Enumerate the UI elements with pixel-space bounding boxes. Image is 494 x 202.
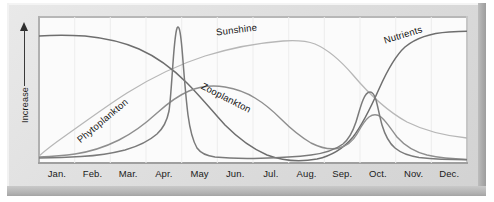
frame-highlight-top [7,3,486,5]
frame-highlight-left [7,3,9,193]
month-label: Nov. [396,168,432,184]
month-label: Oct. [360,168,396,184]
month-label: Dec. [431,168,467,184]
month-label: Jan. [39,168,75,184]
month-label: Jun. [217,168,253,184]
y-axis: Increase [14,22,36,164]
month-label: Apr. [146,168,182,184]
month-label: Sep. [324,168,360,184]
month-label: May [182,168,218,184]
month-label: Mar. [110,168,146,184]
seasonal-plankton-cycle-figure: Increase Sunshine Nutrients Phytoplankto… [0,0,494,202]
month-label: Aug. [289,168,325,184]
y-axis-label: Increase [20,65,30,145]
month-label: Feb. [75,168,111,184]
frame-shadow-bottom [7,186,486,196]
month-label: Jul. [253,168,289,184]
frame-shadow-right [478,3,486,196]
x-axis-month-labels: Jan. Feb. Mar. Apr. May Jun. Jul. Aug. S… [39,168,467,184]
